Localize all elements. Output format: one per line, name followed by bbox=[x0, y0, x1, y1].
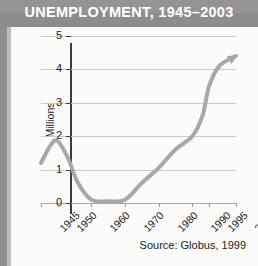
unemployment-chart-figure: UNEMPLOYMENT, 1945–2003 Millions 543210 … bbox=[0, 0, 258, 266]
page-edge-dark-strip bbox=[0, 0, 7, 266]
source-note: Source: Globus, 1999 bbox=[140, 239, 246, 251]
chart-panel: Millions 543210 194519501960197019801990… bbox=[11, 27, 258, 266]
unemployment-curve bbox=[11, 27, 258, 266]
chart-title-bar: UNEMPLOYMENT, 1945–2003 bbox=[0, 0, 258, 27]
chart-title: UNEMPLOYMENT, 1945–2003 bbox=[0, 0, 258, 27]
